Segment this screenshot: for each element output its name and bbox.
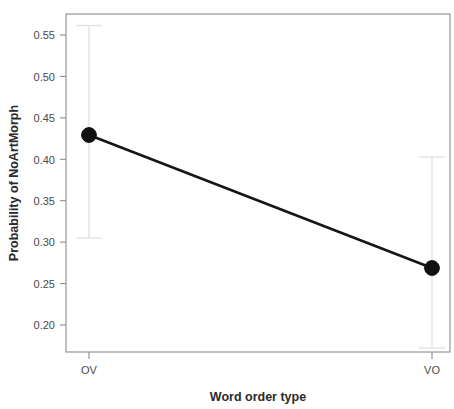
y-axis-tick-labels: 0.55 0.50 0.45 0.40 0.35 0.30 0.25 0.20 [34,29,55,331]
series-connector-line [89,135,432,268]
y-tick-label: 0.40 [34,154,55,166]
x-axis-title: Word order type [210,390,306,404]
error-bar-vo [419,157,445,348]
x-tick-label-ov: OV [81,364,98,376]
y-tick-label: 0.35 [34,195,55,207]
data-point-vo [425,261,440,276]
y-tick-label: 0.55 [34,29,55,41]
y-tick-label: 0.50 [34,71,55,83]
y-tick-label: 0.30 [34,236,55,248]
y-tick-label: 0.45 [34,112,55,124]
y-tick-label: 0.25 [34,278,55,290]
y-axis-ticks [60,35,66,325]
plot-frame [66,14,450,352]
x-axis-ticks [89,352,432,359]
data-point-ov [82,128,97,143]
x-axis-tick-labels: OV VO [81,364,440,376]
y-axis-title: Probability of NoArtMorph [7,105,21,261]
interaction-plot-figure: 0.55 0.50 0.45 0.40 0.35 0.30 0.25 0.20 … [0,0,454,409]
y-tick-label: 0.20 [34,319,55,331]
x-tick-label-vo: VO [424,364,440,376]
